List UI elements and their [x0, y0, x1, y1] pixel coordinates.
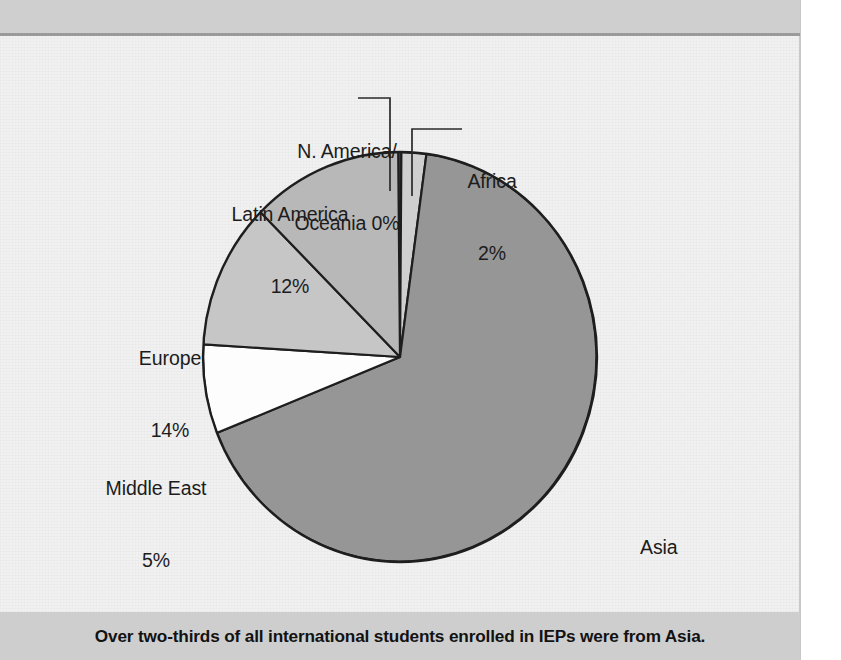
pie-label-europe-name: Europe	[120, 346, 220, 370]
pie-label-latin-america-value: 12%	[222, 274, 358, 298]
pie-label-latin-america: Latin America 12%	[222, 154, 358, 346]
pie-chart-figure: N. America/ Oceania 0% Africa 2% Latin A…	[0, 36, 800, 612]
pie-label-africa-name: Africa	[447, 169, 537, 193]
caption-band: Over two-thirds of all international stu…	[0, 612, 800, 660]
figure-page: N. America/ Oceania 0% Africa 2% Latin A…	[0, 0, 841, 660]
pie-label-asia-name: Asia	[640, 535, 760, 559]
pie-label-africa: Africa 2%	[447, 121, 537, 313]
pie-label-africa-value: 2%	[447, 241, 537, 265]
pie-label-latin-america-name: Latin America	[222, 202, 358, 226]
figure-caption: Over two-thirds of all international stu…	[95, 626, 705, 647]
pie-label-middle-east-value: 5%	[90, 548, 222, 572]
pie-label-middle-east: Middle East 5%	[90, 428, 222, 620]
top-gray-band	[0, 0, 800, 33]
pie-label-middle-east-name: Middle East	[90, 476, 222, 500]
